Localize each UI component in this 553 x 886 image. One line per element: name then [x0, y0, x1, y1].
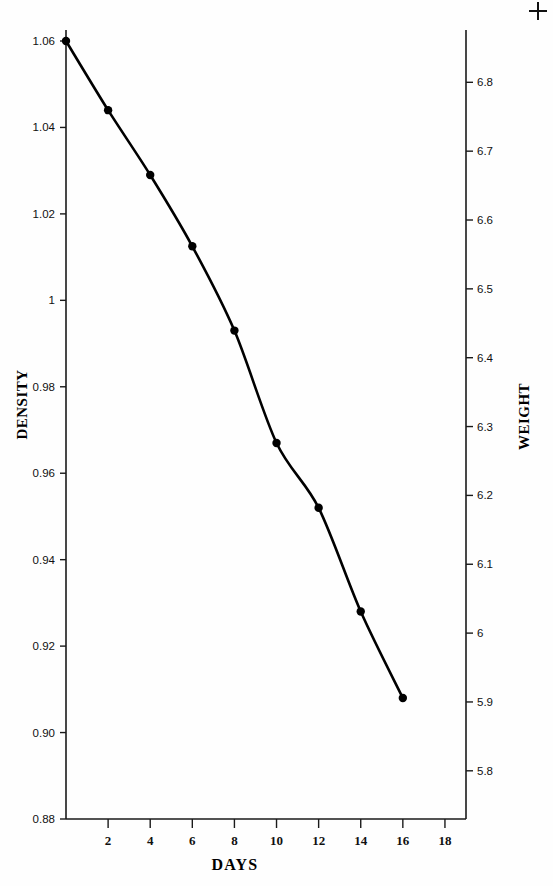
x-tick-label: 2	[105, 833, 112, 848]
data-point-marker	[188, 242, 196, 250]
left-tick-label: 0.92	[33, 640, 55, 652]
data-point-marker	[104, 106, 112, 114]
x-axis-title: DAYS	[0, 856, 470, 874]
right-tick-label: 6.2	[477, 489, 493, 501]
x-tick-label: 16	[396, 833, 410, 848]
right-tick-label: 6	[477, 627, 483, 639]
data-point-marker	[230, 326, 238, 334]
x-tick-label: 4	[147, 833, 154, 848]
x-tick-label: 12	[312, 833, 325, 848]
left-axis-ticks: 0.880.900.920.940.960.9811.021.041.06	[33, 35, 66, 825]
chart-page: 0.880.900.920.940.960.9811.021.041.06 5.…	[0, 0, 553, 886]
x-tick-label: 8	[231, 833, 238, 848]
right-axis-ticks: 5.85.966.16.26.36.46.56.66.76.8	[466, 76, 494, 776]
data-point-marker	[272, 439, 280, 447]
left-tick-label: 0.94	[33, 554, 56, 566]
data-point-marker	[146, 171, 154, 179]
x-tick-label: 6	[189, 833, 196, 848]
data-point-marker	[399, 694, 407, 702]
registration-plus-icon	[529, 2, 547, 20]
x-tick-label: 10	[270, 833, 283, 848]
left-tick-label: 1.04	[33, 121, 56, 133]
left-tick-label: 1	[49, 294, 55, 306]
y-axis-title-right: WEIGHT	[516, 357, 533, 477]
right-tick-label: 6.6	[477, 214, 493, 226]
right-tick-label: 5.8	[477, 765, 493, 777]
left-tick-label: 0.90	[33, 727, 55, 739]
right-tick-label: 5.9	[477, 696, 493, 708]
right-tick-label: 6.5	[477, 283, 493, 295]
left-tick-label: 0.96	[33, 467, 55, 479]
right-tick-label: 6.7	[477, 145, 493, 157]
left-tick-label: 1.02	[33, 208, 55, 220]
density-series-line	[66, 41, 403, 698]
x-axis-ticks: 24681012141618	[105, 819, 452, 848]
left-tick-label: 1.06	[33, 35, 55, 47]
right-tick-label: 6.3	[477, 421, 493, 433]
line-chart: 0.880.900.920.940.960.9811.021.041.06 5.…	[0, 0, 553, 886]
density-series-markers	[62, 37, 407, 702]
data-point-marker	[62, 37, 70, 45]
left-tick-label: 0.98	[33, 381, 55, 393]
data-point-marker	[357, 607, 365, 615]
right-tick-label: 6.4	[477, 352, 494, 364]
right-tick-label: 6.8	[477, 76, 493, 88]
x-tick-label: 14	[354, 833, 368, 848]
y-axis-title-left: DENSITY	[14, 345, 31, 465]
x-tick-label: 18	[438, 833, 452, 848]
data-point-marker	[314, 504, 322, 512]
left-tick-label: 0.88	[33, 813, 55, 825]
right-tick-label: 6.1	[477, 558, 493, 570]
